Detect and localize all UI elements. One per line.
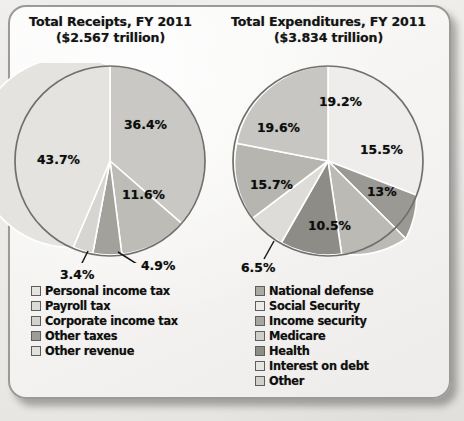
- expenditures-pie-wrap: [218, 63, 439, 263]
- expenditures-label-19-2: 19.2%: [319, 94, 362, 109]
- legend-label-other-revenue: Other revenue: [45, 344, 134, 358]
- legend-item-medicare[interactable]: Medicare: [255, 328, 445, 343]
- receipts-pie-svg: [0, 63, 221, 263]
- expenditures-label-15-5: 15.5%: [360, 142, 403, 157]
- receipts-title-main: Total Receipts, FY 2011: [29, 14, 192, 29]
- legend-item-corporate-income-tax[interactable]: Corporate income tax: [31, 313, 221, 328]
- expenditures-title-main: Total Expenditures, FY 2011: [231, 14, 426, 29]
- legend-item-payroll-tax[interactable]: Payroll tax: [31, 298, 221, 313]
- legend-label-interest-on-debt: Interest on debt: [269, 359, 369, 373]
- legend-label-medicare: Medicare: [269, 329, 326, 343]
- legend-swatch-icon-personal-income-tax: [31, 286, 41, 296]
- legend-label-health: Health: [269, 344, 310, 358]
- legend-item-other-taxes[interactable]: Other taxes: [31, 328, 221, 343]
- legend-label-corporate-income-tax: Corporate income tax: [45, 314, 178, 328]
- expenditures-label-10-5: 10.5%: [308, 218, 351, 233]
- receipts-chart-title: Total Receipts, FY 2011 ($2.567 trillion…: [0, 14, 221, 45]
- legend-label-other: Other: [269, 374, 304, 388]
- receipts-label-36-4: 36.4%: [124, 117, 167, 132]
- receipts-label-4-9: 4.9%: [141, 258, 175, 273]
- legend-item-other-revenue[interactable]: Other revenue: [31, 343, 221, 358]
- expenditures-pie-svg: [218, 63, 439, 263]
- receipts-slices: [0, 63, 205, 256]
- legend-swatch-icon-other-revenue: [31, 346, 41, 356]
- legend-label-personal-income-tax: Personal income tax: [45, 284, 170, 298]
- legend-item-personal-income-tax[interactable]: Personal income tax: [31, 283, 221, 298]
- legend-label-income-security: Income security: [269, 314, 367, 328]
- expenditures-legend: National defense Social Security Income …: [255, 283, 445, 389]
- legend-swatch-icon-payroll-tax: [31, 301, 41, 311]
- receipts-label-43-7: 43.7%: [37, 152, 80, 167]
- expenditures-label-19-6: 19.6%: [257, 120, 300, 135]
- expenditures-chart-title: Total Expenditures, FY 2011 ($3.834 tril…: [218, 14, 439, 45]
- expenditures-label-13: 13%: [367, 184, 397, 199]
- expenditures-title-subtitle: ($3.834 trillion): [218, 30, 439, 46]
- receipts-chart-panel: Total Receipts, FY 2011 ($2.567 trillion…: [0, 0, 221, 394]
- legend-item-social-security[interactable]: Social Security: [255, 298, 445, 313]
- legend-label-other-taxes: Other taxes: [45, 329, 117, 343]
- legend-swatch-icon-health: [255, 346, 265, 356]
- legend-item-other[interactable]: Other: [255, 374, 445, 389]
- legend-swatch-icon-other-taxes: [31, 331, 41, 341]
- legend-swatch-icon-medicare: [255, 331, 265, 341]
- legend-item-national-defense[interactable]: National defense: [255, 283, 445, 298]
- legend-label-national-defense: National defense: [269, 284, 373, 298]
- receipts-label-11-6: 11.6%: [122, 187, 165, 202]
- legend-label-social-security: Social Security: [269, 299, 360, 313]
- receipts-title-subtitle: ($2.567 trillion): [0, 30, 221, 46]
- expenditures-label-6-5: 6.5%: [241, 260, 275, 275]
- expenditures-label-15-7: 15.7%: [250, 177, 293, 192]
- legend-item-health[interactable]: Health: [255, 343, 445, 358]
- legend-swatch-icon-national-defense: [255, 286, 265, 296]
- legend-item-income-security[interactable]: Income security: [255, 313, 445, 328]
- legend-swatch-icon-interest-on-debt: [255, 361, 265, 371]
- receipts-legend: Personal income tax Payroll tax Corporat…: [31, 283, 221, 358]
- expenditures-chart-panel: Total Expenditures, FY 2011 ($3.834 tril…: [218, 0, 439, 394]
- legend-label-payroll-tax: Payroll tax: [45, 299, 110, 313]
- legend-swatch-icon-income-security: [255, 316, 265, 326]
- receipts-pie-wrap: [0, 63, 221, 263]
- leader-line-6-5: [264, 241, 274, 259]
- legend-swatch-icon-other: [255, 376, 265, 386]
- legend-item-interest-on-debt[interactable]: Interest on debt: [255, 358, 445, 373]
- legend-swatch-icon-social-security: [255, 301, 265, 311]
- legend-swatch-icon-corporate-income-tax: [31, 316, 41, 326]
- receipts-label-3-4: 3.4%: [60, 267, 94, 282]
